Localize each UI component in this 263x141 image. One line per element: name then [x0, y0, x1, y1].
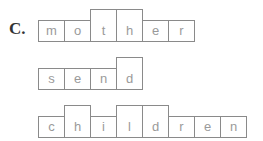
- letter-box: h: [116, 9, 143, 42]
- letter-box: i: [90, 116, 117, 138]
- letter-box: c: [38, 116, 65, 138]
- letter-box: e: [64, 68, 91, 90]
- letter-box: r: [168, 20, 195, 42]
- letter-box: n: [220, 116, 247, 138]
- letter-box: l: [116, 105, 143, 138]
- letter-box: r: [168, 116, 195, 138]
- letter-box: d: [142, 105, 169, 138]
- exercise-label: C.: [9, 19, 26, 39]
- letter-box: e: [142, 20, 169, 42]
- letter-box: m: [38, 20, 65, 42]
- letter-box: h: [64, 105, 91, 138]
- letter-box: o: [64, 20, 91, 42]
- letter-box: e: [194, 116, 221, 138]
- letter-box: t: [90, 9, 117, 42]
- letter-box: n: [90, 68, 117, 90]
- letter-box: s: [38, 68, 65, 90]
- letter-box: d: [116, 57, 143, 90]
